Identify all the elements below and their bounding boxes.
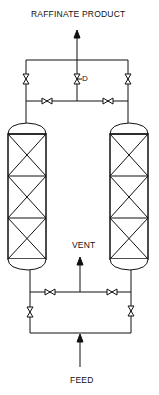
- process-diagram: [0, 0, 159, 395]
- upper-crossover-right-valve[interactable]: [103, 98, 113, 104]
- raffinate-product-arrow: [74, 30, 80, 60]
- bottom-right-valve[interactable]: [128, 306, 134, 316]
- lower-crossover-left-valve[interactable]: [45, 289, 55, 295]
- top-right-valve[interactable]: [125, 74, 131, 84]
- bottom-left-valve[interactable]: [27, 307, 33, 317]
- left-adsorber-column: [8, 123, 46, 270]
- lower-crossover-right-valve[interactable]: [107, 289, 117, 295]
- right-adsorber-column: [110, 123, 148, 270]
- top-left-valve[interactable]: [23, 74, 29, 84]
- feed-arrow: [77, 334, 83, 367]
- upper-crossover-left-valve[interactable]: [42, 98, 52, 104]
- vent-arrow: [77, 257, 83, 292]
- top-center-control-valve[interactable]: [74, 74, 82, 84]
